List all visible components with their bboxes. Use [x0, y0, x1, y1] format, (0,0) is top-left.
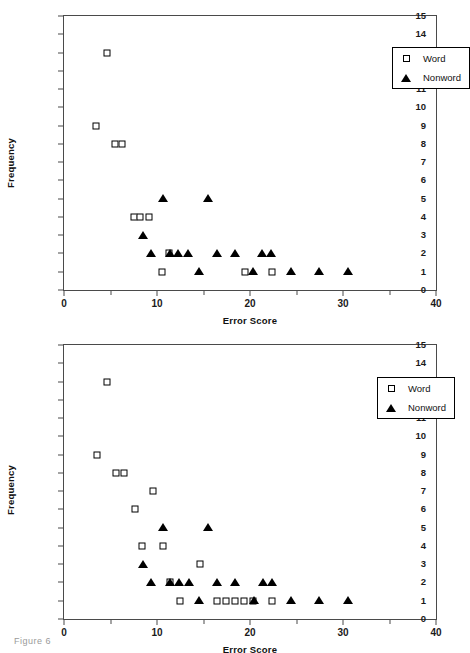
data-point-word [120, 469, 127, 476]
x-tick-label: 20 [244, 628, 255, 638]
legend-label-word-bottom: Word [408, 384, 431, 394]
y-tick [58, 491, 64, 492]
legend-top: Word Nonword [392, 47, 470, 89]
legend-label-nonword-top: Nonword [423, 73, 461, 83]
data-point-word [232, 597, 239, 604]
data-point-word [137, 213, 144, 220]
x-tick [436, 619, 437, 625]
data-point-nonword [203, 523, 213, 531]
x-tick-minor [296, 619, 297, 624]
x-tick-minor [110, 619, 111, 624]
y-tick-label: 4 [421, 541, 426, 551]
data-point-word [269, 268, 276, 275]
y-tick-label: 15 [415, 340, 426, 350]
data-point-word [93, 451, 100, 458]
x-tick-minor [203, 290, 204, 295]
data-point-word [113, 469, 120, 476]
x-tick-minor [110, 290, 111, 295]
y-tick-label: 1 [421, 596, 426, 606]
y-tick-label: 0 [421, 285, 426, 295]
data-point-nonword [212, 578, 222, 586]
y-tick [58, 509, 64, 510]
data-point-word [118, 140, 125, 147]
x-tick [436, 290, 437, 296]
data-point-nonword [230, 578, 240, 586]
y-tick [58, 381, 64, 382]
data-point-nonword [146, 578, 156, 586]
y-tick-label: 10 [415, 432, 426, 442]
legend-bottom: Word Nonword [377, 377, 455, 419]
y-tick [58, 180, 64, 181]
y-tick-label: 0 [421, 614, 426, 624]
data-point-nonword [266, 249, 276, 257]
open-square-icon [399, 55, 413, 62]
y-tick [58, 454, 64, 455]
y-tick [58, 162, 64, 163]
data-point-word [103, 378, 110, 385]
data-point-word [103, 49, 110, 56]
data-point-word [222, 597, 229, 604]
legend-item-word-bottom: Word [384, 383, 446, 394]
plot-area-top: 0123456789101112131415 010203040 Error S… [63, 15, 437, 291]
data-point-word [92, 122, 99, 129]
y-tick-label: 6 [421, 505, 426, 515]
y-tick-label: 1 [421, 267, 426, 277]
x-tick [250, 290, 251, 296]
y-tick-label: 14 [415, 30, 426, 40]
y-tick [58, 34, 64, 35]
data-point-nonword [343, 267, 353, 275]
y-tick-label: 2 [421, 578, 426, 588]
filled-triangle-icon [384, 404, 398, 412]
legend-label-word-top: Word [423, 54, 446, 64]
data-point-nonword [267, 578, 277, 586]
y-tick-label: 3 [421, 559, 426, 569]
y-tick-label: 4 [421, 212, 426, 222]
y-tick [58, 564, 64, 565]
x-tick [64, 619, 65, 625]
y-tick [58, 436, 64, 437]
x-tick [157, 619, 158, 625]
x-axis-title-top: Error Score [223, 315, 277, 326]
data-point-nonword [146, 249, 156, 257]
x-tick-label: 30 [337, 628, 348, 638]
x-tick-label: 40 [430, 628, 441, 638]
y-tick [58, 125, 64, 126]
data-point-word [158, 268, 165, 275]
data-point-word [177, 597, 184, 604]
data-point-nonword [158, 523, 168, 531]
y-tick-label: 7 [421, 157, 426, 167]
y-tick-label: 8 [421, 468, 426, 478]
data-point-nonword [314, 267, 324, 275]
legend-item-nonword-bottom: Nonword [384, 402, 446, 413]
data-point-nonword [286, 267, 296, 275]
data-point-nonword [158, 194, 168, 202]
y-tick [58, 70, 64, 71]
data-point-word [196, 561, 203, 568]
x-tick-minor [203, 619, 204, 624]
y-tick [58, 399, 64, 400]
data-point-nonword [138, 560, 148, 568]
y-tick [58, 345, 64, 346]
x-tick [343, 290, 344, 296]
data-point-nonword [248, 267, 258, 275]
x-tick [64, 290, 65, 296]
data-point-word [159, 542, 166, 549]
open-square-icon [384, 385, 398, 392]
y-tick-label: 7 [421, 486, 426, 496]
y-tick-label: 9 [421, 450, 426, 460]
y-tick-label: 14 [415, 359, 426, 369]
y-tick [58, 545, 64, 546]
x-tick-minor [389, 619, 390, 624]
x-tick-minor [296, 290, 297, 295]
y-tick [58, 600, 64, 601]
y-tick [58, 253, 64, 254]
data-point-nonword [286, 596, 296, 604]
y-tick [58, 418, 64, 419]
y-tick [58, 89, 64, 90]
plot-area-bottom: 0123456789101112131415 010203040 Error S… [63, 344, 437, 620]
y-tick [58, 52, 64, 53]
y-tick-label: 5 [421, 523, 426, 533]
x-tick [250, 619, 251, 625]
y-tick [58, 143, 64, 144]
data-point-nonword [183, 249, 193, 257]
